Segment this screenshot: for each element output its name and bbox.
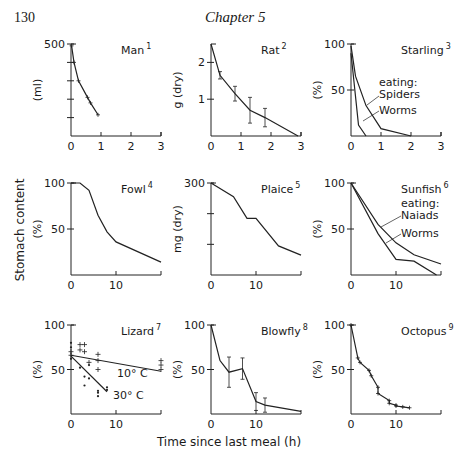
y-tick-label: 100 bbox=[324, 177, 345, 190]
x-tick-label: 0 bbox=[348, 279, 355, 292]
panel-lizard: 01010050(%)Lizard710° C30° C bbox=[31, 319, 164, 431]
x-tick-label: 3 bbox=[438, 140, 445, 153]
data-point-dot bbox=[106, 389, 108, 391]
x-tick-label: 2 bbox=[268, 140, 275, 153]
reference-number: 9 bbox=[448, 323, 453, 332]
reference-number: 1 bbox=[146, 42, 151, 51]
reference-number: 4 bbox=[148, 181, 153, 190]
y-tick-label: 300 bbox=[184, 177, 205, 190]
data-point-dot bbox=[83, 384, 85, 386]
data-point-dot bbox=[106, 386, 108, 388]
y-tick-label: 100 bbox=[184, 319, 205, 332]
y-tick-label: 100 bbox=[324, 38, 345, 51]
x-tick-label: 1 bbox=[378, 140, 385, 153]
panel-fowl: 01010050(%)Fowl4 bbox=[31, 177, 161, 292]
x-tick-label: 0 bbox=[208, 418, 215, 431]
figure-grid: 0123500(ml)Man1012321g (dry)Rat201231005… bbox=[0, 0, 458, 463]
x-tick-label: 0 bbox=[208, 140, 215, 153]
x-tick-label: 10 bbox=[249, 279, 263, 292]
y-axis-label: mg (dry) bbox=[171, 205, 184, 253]
data-point-plus bbox=[349, 323, 353, 327]
x-tick-label: 10 bbox=[389, 418, 403, 431]
y-tick-label: 2 bbox=[198, 56, 205, 69]
data-point-dot bbox=[88, 364, 90, 366]
annotation-naiads: Naiads bbox=[401, 209, 439, 222]
x-tick-label: 2 bbox=[128, 140, 135, 153]
y-axis-label: (%) bbox=[171, 360, 184, 379]
data-point-plus bbox=[96, 358, 101, 363]
panel-title: Octopus9 bbox=[401, 323, 454, 338]
reference-number: 3 bbox=[446, 42, 451, 51]
data-point-plus bbox=[72, 60, 76, 64]
data-point-plus bbox=[159, 358, 164, 363]
data-point-plus bbox=[96, 352, 101, 357]
panel-plaice: 010300mg (dry)Plaice5 bbox=[171, 177, 301, 292]
x-tick-label: 1 bbox=[238, 140, 245, 153]
data-point-dot bbox=[70, 346, 72, 348]
data-point-plus bbox=[387, 401, 391, 405]
panel-title: Man1 bbox=[121, 42, 151, 57]
panel-blowfly: 01010050(%)Blowfly8 bbox=[171, 319, 308, 431]
reference-number: 5 bbox=[295, 181, 300, 190]
data-point-plus bbox=[408, 406, 412, 410]
x-tick-label: 10 bbox=[389, 279, 403, 292]
data-point-dot bbox=[97, 392, 99, 394]
data-point-dot bbox=[70, 358, 72, 360]
data-point-dot bbox=[79, 367, 81, 369]
y-tick-label: 100 bbox=[44, 177, 65, 190]
x-tick-label: 10 bbox=[109, 418, 123, 431]
data-point-plus bbox=[78, 342, 83, 347]
panel-title: Blowfly8 bbox=[261, 323, 308, 338]
reference-number: 8 bbox=[303, 323, 308, 332]
panel-title: Fowl4 bbox=[121, 181, 153, 196]
x-tick-label: 3 bbox=[298, 140, 305, 153]
y-axis-label: (%) bbox=[311, 360, 324, 379]
panel-man: 0123500(ml)Man1 bbox=[31, 38, 165, 153]
y-tick-label: 100 bbox=[324, 319, 345, 332]
y-tick-label: 50 bbox=[51, 223, 65, 236]
leader-line bbox=[381, 216, 401, 227]
y-axis-label: (%) bbox=[31, 219, 44, 238]
panel-title: Sunfish6 bbox=[401, 181, 449, 196]
data-point-plus bbox=[69, 353, 74, 358]
error-bar bbox=[263, 108, 267, 126]
x-tick-label: 0 bbox=[68, 279, 75, 292]
x-tick-label: 1 bbox=[98, 140, 105, 153]
panel-title: Rat2 bbox=[261, 42, 287, 57]
x-tick-label: 10 bbox=[249, 418, 263, 431]
shared-x-axis-label: Time since last meal (h) bbox=[156, 435, 301, 449]
x-tick-label: 0 bbox=[208, 279, 215, 292]
annotation-worms: Worms bbox=[401, 227, 439, 240]
y-axis-label: (%) bbox=[311, 219, 324, 238]
y-tick-label: 500 bbox=[44, 38, 65, 51]
data-point-plus bbox=[401, 405, 405, 409]
x-tick-label: 0 bbox=[348, 140, 355, 153]
y-tick-label: 50 bbox=[331, 364, 345, 377]
annotation-10c: 10° C bbox=[117, 367, 148, 380]
y-axis-label: (%) bbox=[311, 80, 324, 99]
series-line bbox=[71, 183, 161, 262]
data-point-dot bbox=[83, 376, 85, 378]
series-line bbox=[211, 44, 298, 136]
x-tick-label: 0 bbox=[348, 418, 355, 431]
y-axis-label: (%) bbox=[31, 360, 44, 379]
y-tick-label: 50 bbox=[51, 364, 65, 377]
x-tick-label: 0 bbox=[68, 140, 75, 153]
data-point-dot bbox=[97, 395, 99, 397]
reference-number: 2 bbox=[281, 42, 286, 51]
x-tick-label: 0 bbox=[68, 418, 75, 431]
data-point-dot bbox=[88, 377, 90, 379]
y-tick-label: 1 bbox=[198, 93, 205, 106]
y-tick-label: 50 bbox=[331, 223, 345, 236]
data-point-dot bbox=[70, 342, 72, 344]
y-tick-label: 100 bbox=[44, 319, 65, 332]
reference-number: 6 bbox=[444, 181, 449, 190]
panel-title: Plaice5 bbox=[261, 181, 300, 196]
shared-y-axis-label: Stomach content bbox=[13, 178, 27, 281]
y-tick-label: 50 bbox=[191, 364, 205, 377]
panel-title: Lizard7 bbox=[121, 323, 161, 338]
data-point-plus bbox=[82, 342, 87, 347]
panel-rat: 012321g (dry)Rat2 bbox=[171, 42, 305, 153]
x-tick-label: 3 bbox=[158, 140, 165, 153]
panel-starling: 012310050(%)Starling3eating:SpidersWorms bbox=[311, 38, 451, 153]
